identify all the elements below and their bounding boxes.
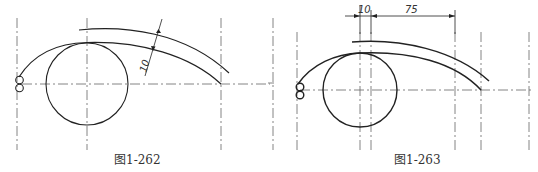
centerlines xyxy=(17,18,270,150)
dimension-label-10: 10 xyxy=(358,4,371,15)
figure-caption-right: 图1-263 xyxy=(394,150,441,167)
figure-1-262: 10 xyxy=(16,18,270,150)
figure-caption-left: 图1-262 xyxy=(114,150,161,167)
technical-drawings: 10 10 75 xyxy=(0,0,538,172)
inner-arc xyxy=(19,42,221,84)
outer-arc xyxy=(352,41,489,81)
small-circle-bottom xyxy=(16,84,24,92)
dimension-label-75: 75 xyxy=(405,4,418,15)
arrow-icon xyxy=(371,14,377,18)
centerlines xyxy=(268,18,534,150)
figure-1-263: 10 75 xyxy=(268,4,534,150)
arrow-icon xyxy=(449,14,455,18)
dimension-10: 10 xyxy=(137,19,162,76)
arrow-icon xyxy=(156,29,161,33)
outer-arc xyxy=(79,29,229,73)
